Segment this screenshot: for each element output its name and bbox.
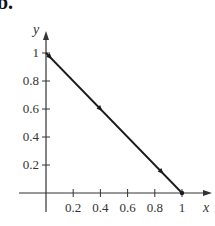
y-axis-label: y (31, 22, 40, 37)
data-series (46, 53, 184, 195)
endpoint-dot (180, 191, 184, 195)
x-tick-label: 1 (179, 200, 186, 215)
y-axis-arrow-icon (43, 31, 49, 40)
y-tick-label: 0.8 (23, 73, 39, 88)
y-tick-label: 0.2 (23, 157, 39, 172)
x-tick-label: 0.8 (147, 200, 163, 215)
x-tick-label: 0.4 (92, 200, 109, 215)
axes (19, 31, 212, 212)
x-tick-label: 0.2 (65, 200, 81, 215)
x-axis-label: x (202, 200, 210, 215)
y-tick-label: 1 (33, 45, 40, 60)
ticks: 0.20.40.60.810.20.40.60.81 (23, 45, 186, 215)
y-tick-label: 0.4 (23, 129, 40, 144)
x-axis-arrow-icon (203, 190, 212, 196)
x-tick-label: 0.6 (119, 200, 136, 215)
line-chart: 0.20.40.60.810.20.40.60.81 x y (0, 0, 215, 226)
y-tick-label: 0.6 (23, 101, 40, 116)
